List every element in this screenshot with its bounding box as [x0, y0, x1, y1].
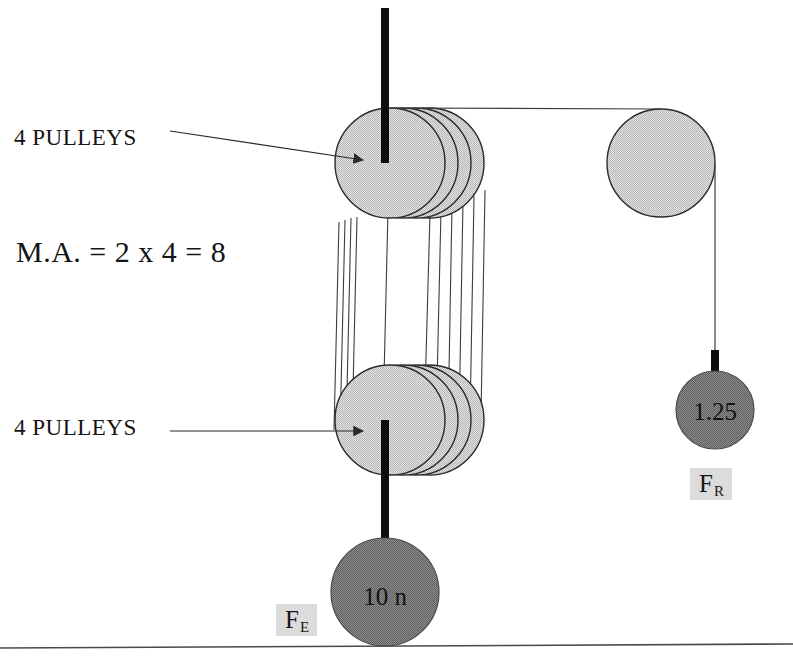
upper-pulley-block[interactable] [335, 108, 484, 218]
force-effort-subscript: E [300, 619, 309, 635]
force-effort-tag: FE [276, 604, 317, 636]
single-fixed-pulley[interactable] [607, 109, 715, 217]
pulley-diagram-canvas: 4 PULLEYS 4 PULLEYS M.A. = 2 x 4 = 8 10 … [0, 0, 793, 664]
lower-pulley-block[interactable] [335, 365, 484, 475]
effort-weight[interactable] [331, 538, 439, 646]
force-effort-symbol: F [285, 606, 299, 633]
diagram-vector-layer [0, 0, 793, 664]
leader-line-top [170, 131, 363, 160]
force-resistance-tag: FR [690, 468, 732, 500]
label-pulleys-top: 4 PULLEYS [14, 125, 137, 151]
mechanical-advantage-equation: M.A. = 2 x 4 = 8 [16, 235, 226, 269]
upper-support-bar [381, 8, 389, 163]
label-pulleys-bottom: 4 PULLEYS [14, 415, 137, 441]
force-resistance-subscript: R [714, 483, 724, 499]
resistance-weight[interactable] [676, 371, 754, 449]
force-resistance-symbol: F [699, 470, 713, 497]
lower-support-bar [381, 420, 389, 550]
